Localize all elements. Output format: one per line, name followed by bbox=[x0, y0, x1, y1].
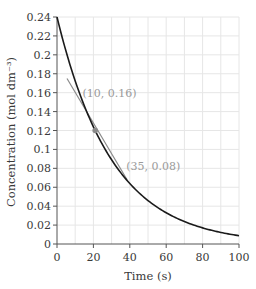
y-tick-label: 0.08 bbox=[27, 162, 52, 175]
y-tick-label: 0.22 bbox=[27, 30, 52, 43]
y-tick-label: 0.24 bbox=[27, 11, 52, 24]
x-tick-label: 40 bbox=[123, 251, 137, 264]
point-annotation: (10, 0.16) bbox=[82, 87, 136, 100]
tangent-point-marker bbox=[92, 128, 98, 134]
y-axis-ticks: 00.020.040.060.080.10.120.140.160.180.20… bbox=[27, 11, 58, 251]
x-axis-label: Time (s) bbox=[124, 269, 172, 283]
y-axis-label: Concentration (mol dm⁻³) bbox=[4, 57, 18, 207]
y-tick-label: 0.12 bbox=[27, 125, 52, 138]
x-axis-ticks: 020406080100 bbox=[54, 244, 250, 264]
y-tick-label: 0.02 bbox=[27, 219, 52, 232]
y-tick-label: 0.1 bbox=[34, 143, 52, 156]
y-tick-label: 0.14 bbox=[27, 106, 52, 119]
y-tick-label: 0.2 bbox=[34, 49, 52, 62]
y-tick-label: 0.18 bbox=[27, 68, 52, 81]
x-tick-label: 60 bbox=[159, 251, 173, 264]
y-tick-label: 0.16 bbox=[27, 87, 52, 100]
x-tick-label: 0 bbox=[54, 251, 61, 264]
y-tick-label: 0.06 bbox=[27, 181, 52, 194]
point-annotation: (35, 0.08) bbox=[126, 160, 180, 173]
x-tick-label: 80 bbox=[196, 251, 210, 264]
grid bbox=[57, 17, 239, 244]
x-tick-label: 100 bbox=[229, 251, 250, 264]
y-tick-label: 0.04 bbox=[27, 200, 52, 213]
concentration-time-chart: 00.020.040.060.080.10.120.140.160.180.20… bbox=[0, 0, 256, 289]
x-tick-label: 20 bbox=[86, 251, 100, 264]
y-tick-label: 0 bbox=[44, 238, 51, 251]
